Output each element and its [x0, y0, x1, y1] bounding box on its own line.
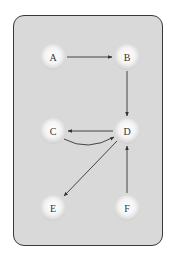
node-e-label: E [50, 203, 56, 214]
node-c: C [40, 118, 66, 144]
node-a-label: A [49, 52, 57, 63]
node-c-label: C [50, 126, 57, 137]
node-d-label: D [123, 126, 130, 137]
graph-canvas: A B C D E F [0, 0, 176, 262]
node-b: B [114, 44, 140, 70]
edge-d-to-e [64, 141, 117, 196]
node-b-label: B [124, 52, 131, 63]
node-f: F [114, 195, 140, 221]
node-f-label: F [124, 203, 130, 214]
node-a: A [40, 44, 66, 70]
edge-c-to-d-curved [64, 137, 114, 145]
node-e: E [40, 195, 66, 221]
node-d: D [114, 118, 140, 144]
